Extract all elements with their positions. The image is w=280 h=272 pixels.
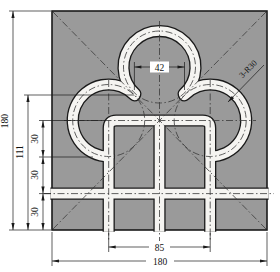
dim-left-30-bot: 30 xyxy=(30,207,40,217)
dim-left-30-top: 30 xyxy=(30,134,40,144)
dim-bottom-85: 85 xyxy=(155,243,165,253)
dim-left-30-mid: 30 xyxy=(30,170,40,180)
dim-bottom-180: 180 xyxy=(153,257,168,267)
dim-left-180: 180 xyxy=(0,114,10,129)
dim-top-42: 42 xyxy=(155,63,165,73)
technical-drawing: 180 111 30 30 30 42 85 180 3-R30 xyxy=(0,0,280,272)
dim-left-111: 111 xyxy=(15,145,25,159)
